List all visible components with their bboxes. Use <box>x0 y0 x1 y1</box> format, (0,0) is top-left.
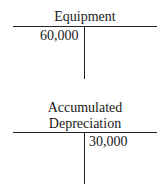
t-account-equipment: Equipment 60,000 <box>0 0 167 90</box>
t-account-accumulated-depreciation: Accumulated Depreciation 30,000 <box>0 95 167 195</box>
account-title-line: Depreciation <box>13 116 157 132</box>
account-title: Equipment <box>13 9 157 24</box>
t-account-horizontal-rule <box>13 132 157 133</box>
t-account-vertical-rule <box>84 132 85 184</box>
account-title-line: Equipment <box>54 9 115 24</box>
debit-amount: 60,000 <box>40 28 79 43</box>
account-title: Accumulated Depreciation <box>13 100 157 132</box>
credit-amount: 30,000 <box>89 134 128 149</box>
t-account-vertical-rule <box>84 26 85 79</box>
t-account-horizontal-rule <box>13 26 157 27</box>
account-title-line: Accumulated <box>13 100 157 116</box>
